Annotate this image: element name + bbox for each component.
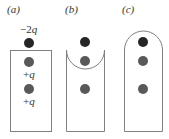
negative-charge-dot [138,37,148,47]
panel-c: (c) [122,3,163,132]
positive-charge-dot-1 [80,56,90,66]
panel-b: (b) [65,3,105,132]
charge-label-plus-q-2: +q [23,95,35,107]
charge-label-minus-2q: −2q [20,23,38,35]
positive-charge-dot-2 [80,84,90,94]
negative-charge-dot [24,38,34,48]
panel-c-label: (c) [122,3,135,16]
panel-a-label: (a) [7,3,20,16]
panel-b-label: (b) [65,3,78,16]
charge-label-plus-q-1: +q [23,68,35,80]
positive-charge-dot-1 [138,56,148,66]
charge-surface-diagram: (a) −2q +q +q (b) (c) [0,0,169,139]
negative-charge-dot [80,37,90,47]
positive-charge-dot-2 [138,84,148,94]
positive-charge-dot-1 [24,57,34,67]
positive-charge-dot-2 [24,84,34,94]
panel-a: (a) −2q +q +q [7,3,52,132]
